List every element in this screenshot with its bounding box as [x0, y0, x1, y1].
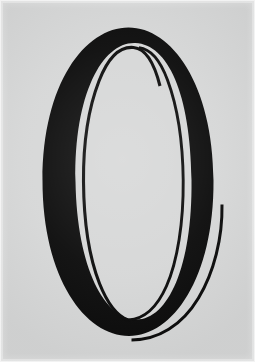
- inner-hairline-stroke: [83, 47, 160, 320]
- thick-bowl-stroke: [43, 28, 214, 337]
- inner-hairline-right-stroke: [129, 48, 184, 320]
- image-canvas: Large black ornamental capital letter O …: [0, 0, 255, 362]
- letter-o-glyph: Large black ornamental capital letter O …: [0, 0, 255, 362]
